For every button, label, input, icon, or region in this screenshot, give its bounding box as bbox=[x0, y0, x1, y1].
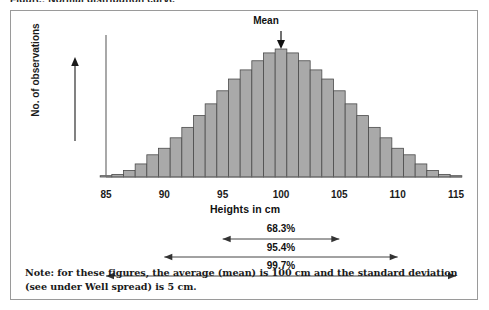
x-axis-tick-label: 115 bbox=[441, 189, 471, 200]
y-axis-label: No. of observations bbox=[30, 10, 44, 130]
histogram-bar bbox=[299, 61, 311, 177]
histogram-bar bbox=[264, 53, 276, 177]
histogram-bar bbox=[415, 164, 427, 177]
x-axis-tick-label: 100 bbox=[266, 189, 296, 200]
histogram-bar bbox=[369, 127, 381, 177]
histogram-bar bbox=[287, 53, 299, 177]
histogram-bar bbox=[334, 91, 346, 177]
interval-arrowhead-right-icon bbox=[390, 254, 398, 260]
histogram-bar bbox=[135, 164, 147, 177]
figure-caption-sliver: Figure: Normal distribution curve bbox=[10, 0, 270, 2]
histogram-bar bbox=[310, 70, 322, 177]
histogram-bar bbox=[170, 138, 182, 177]
x-axis-tick-label: 90 bbox=[149, 189, 179, 200]
histogram-bar bbox=[404, 155, 416, 177]
histogram-bar bbox=[147, 155, 159, 177]
histogram-bar bbox=[182, 127, 194, 177]
histogram-bar bbox=[392, 148, 404, 177]
histogram-bar bbox=[229, 79, 241, 177]
histogram-bars bbox=[100, 49, 462, 177]
y-axis-arrowhead-icon bbox=[71, 57, 79, 66]
x-axis-tick-label: 110 bbox=[383, 189, 413, 200]
histogram-bar bbox=[357, 116, 369, 177]
figure-frame: No. of observations 859095100105110115 H… bbox=[10, 10, 478, 300]
histogram-bar bbox=[322, 79, 334, 177]
interval-arrowhead-left-icon bbox=[223, 236, 231, 242]
histogram-bar bbox=[427, 170, 439, 177]
histogram-bar bbox=[275, 49, 287, 177]
interval-arrowhead-right-icon bbox=[331, 236, 339, 242]
histogram-bar bbox=[345, 104, 357, 177]
histogram-bar bbox=[194, 116, 206, 177]
histogram-bar bbox=[240, 70, 252, 177]
x-axis-tick-label: 85 bbox=[91, 189, 121, 200]
histogram-bar bbox=[217, 91, 229, 177]
chart-canvas bbox=[11, 11, 479, 301]
interval-arrowhead-left-icon bbox=[164, 254, 172, 260]
interval-percent-label: 68.3% bbox=[241, 223, 321, 234]
interval-percent-label: 95.4% bbox=[241, 242, 321, 253]
histogram-chart: No. of observations 859095100105110115 H… bbox=[11, 11, 479, 301]
x-axis-tick-label: 105 bbox=[324, 189, 354, 200]
histogram-bar bbox=[205, 104, 217, 177]
histogram-bar bbox=[380, 138, 392, 177]
mean-arrow-icon bbox=[277, 31, 285, 49]
histogram-bar bbox=[159, 148, 171, 177]
mean-arrowhead-icon bbox=[277, 40, 285, 49]
histogram-bar bbox=[252, 61, 264, 177]
figure-note: Note: for these figures, the average (me… bbox=[25, 266, 465, 294]
figure-root: Figure: Normal distribution curve No. of… bbox=[0, 0, 489, 310]
x-axis-tick-label: 95 bbox=[208, 189, 238, 200]
histogram-bar bbox=[124, 170, 136, 177]
mean-label: Mean bbox=[236, 15, 296, 26]
x-axis-title: Heights in cm bbox=[11, 203, 479, 215]
